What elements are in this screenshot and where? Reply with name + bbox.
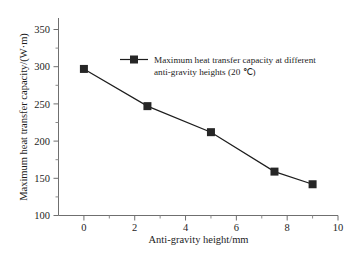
y-tick-label: 200 (34, 136, 50, 147)
x-tick-label: 6 (234, 222, 239, 233)
y-axis-title: Maximum heat transfer capacity/(W·m) (16, 12, 32, 222)
x-tick-label: 2 (132, 222, 137, 233)
y-tick-label: 100 (34, 210, 50, 221)
y-tick-label: 300 (34, 61, 50, 72)
legend-marker-swatch (130, 56, 138, 64)
x-tick-label: 0 (81, 222, 86, 233)
y-tick-label: 250 (34, 99, 50, 110)
data-point-marker (143, 102, 151, 110)
x-tick-label: 8 (285, 222, 290, 233)
y-tick-label: 350 (34, 24, 50, 35)
data-point-marker (309, 180, 317, 188)
data-point-marker (270, 168, 278, 176)
y-axis-ticks: 100150200250300350 (34, 24, 58, 221)
y-tick-label: 150 (34, 173, 50, 184)
chart-figure: 100150200250300350 0246810 Maximum heat … (0, 0, 357, 258)
x-axis-ticks: 0246810 (81, 216, 343, 234)
legend-label-line1: Maximum heat transfer capacity at differ… (154, 55, 316, 65)
x-tick-label: 4 (183, 222, 189, 233)
x-tick-label: 10 (333, 222, 344, 233)
data-point-marker (80, 65, 88, 73)
data-point-marker (207, 128, 215, 136)
chart-legend: Maximum heat transfer capacity at differ… (120, 55, 316, 78)
chart-plot-area: 100150200250300350 0246810 Maximum heat … (0, 0, 357, 258)
legend-label-line2: anti-gravity heights (20 ℃) (154, 67, 256, 77)
series-line (84, 69, 313, 184)
x-axis-title: Anti-gravity height/mm (58, 234, 339, 245)
